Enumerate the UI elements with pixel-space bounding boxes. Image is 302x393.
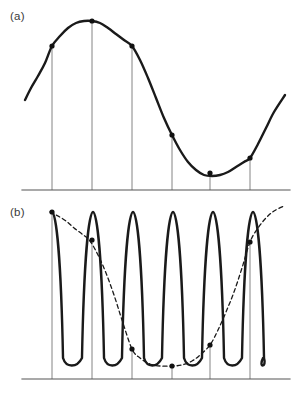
sample-marker-1 <box>49 43 54 48</box>
panel-a-plot <box>0 0 302 197</box>
sample-marker-3 <box>129 43 134 48</box>
series-high-frequency-signal <box>52 212 265 366</box>
panel-a: (a) <box>0 0 302 197</box>
sample-marker-5 <box>207 342 212 347</box>
sample-marker-3 <box>129 346 134 351</box>
sample-marker-6 <box>247 155 252 160</box>
sample-marker-4 <box>169 363 174 368</box>
series-signal <box>25 21 285 176</box>
panel-b-plot <box>0 196 302 393</box>
aliasing-figure: (a) (b) <box>0 0 302 393</box>
sample-marker-1 <box>49 209 54 214</box>
sample-marker-6 <box>247 239 252 244</box>
sample-marker-5 <box>207 170 212 175</box>
sample-marker-4 <box>169 132 174 137</box>
sample-marker-2 <box>89 237 94 242</box>
panel-b: (b) <box>0 196 302 393</box>
sample-marker-2 <box>89 18 94 23</box>
